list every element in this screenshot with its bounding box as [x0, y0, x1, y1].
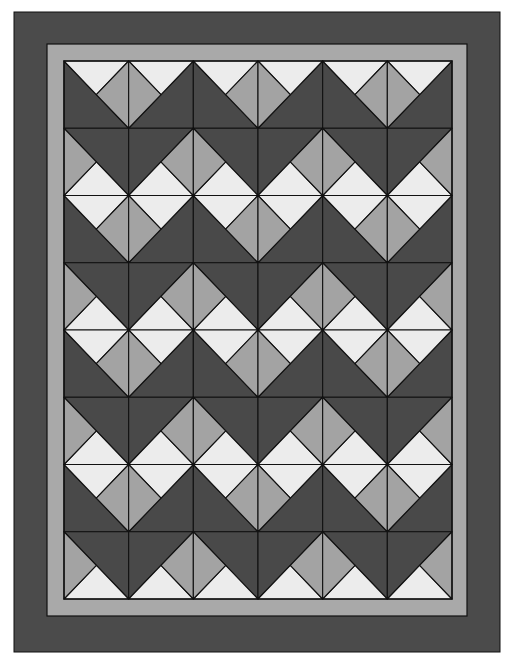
quilt-block — [64, 330, 129, 397]
quilt-block — [64, 397, 129, 464]
quilt-block — [129, 196, 194, 263]
quilt-block — [64, 196, 129, 263]
quilt-block — [258, 397, 323, 464]
quilt-block — [64, 263, 129, 330]
quilt-block — [129, 330, 194, 397]
quilt-block — [193, 465, 258, 532]
quilt-block — [323, 128, 388, 195]
quilt-block — [129, 397, 194, 464]
quilt-block — [258, 532, 323, 599]
quilt-block — [193, 532, 258, 599]
quilt-block — [129, 465, 194, 532]
quilt-block — [193, 196, 258, 263]
quilt-block — [387, 330, 452, 397]
quilt-block — [193, 330, 258, 397]
quilt-block — [193, 61, 258, 128]
quilt-block — [323, 465, 388, 532]
quilt-block — [258, 128, 323, 195]
quilt-block — [323, 196, 388, 263]
quilt-diagram — [0, 0, 511, 660]
quilt-block — [193, 128, 258, 195]
quilt-block — [387, 128, 452, 195]
quilt-block — [129, 61, 194, 128]
quilt-block — [387, 532, 452, 599]
quilt-block — [129, 128, 194, 195]
quilt-block — [64, 465, 129, 532]
quilt-block — [129, 532, 194, 599]
quilt-block — [129, 263, 194, 330]
quilt-block — [64, 128, 129, 195]
quilt-block — [258, 61, 323, 128]
quilt-block — [64, 61, 129, 128]
quilt-block — [258, 263, 323, 330]
quilt-block — [193, 263, 258, 330]
quilt-block — [387, 465, 452, 532]
quilt-block — [387, 263, 452, 330]
quilt-block — [323, 532, 388, 599]
quilt-block — [258, 465, 323, 532]
quilt-block — [323, 397, 388, 464]
quilt-blocks — [64, 61, 452, 599]
quilt-block — [387, 61, 452, 128]
quilt-block — [387, 196, 452, 263]
quilt-block — [64, 532, 129, 599]
quilt-block — [323, 61, 388, 128]
quilt-block — [323, 330, 388, 397]
quilt-block — [323, 263, 388, 330]
quilt-block — [193, 397, 258, 464]
quilt-block — [258, 196, 323, 263]
quilt-block — [258, 330, 323, 397]
quilt-block — [387, 397, 452, 464]
